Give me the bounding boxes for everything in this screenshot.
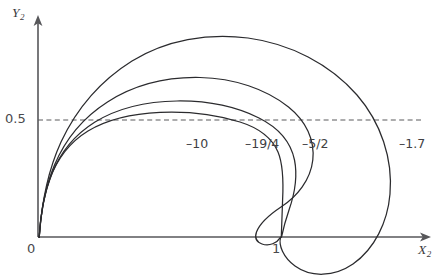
y-axis — [34, 15, 43, 237]
curve-label-minus-19-4: –19/4 — [245, 138, 279, 151]
origin-tick-label: 0 — [27, 242, 35, 255]
curve-label-minus-10: –10 — [186, 138, 208, 151]
plot-canvas — [0, 0, 441, 277]
y-tick-label-half: 0.5 — [5, 112, 26, 125]
curve-minus-5-2 — [39, 77, 313, 244]
curve-minus-10 — [39, 112, 283, 237]
x-axis-label: X2 — [418, 243, 431, 257]
curve-minus-19-4 — [39, 101, 296, 237]
x-tick-label-one: 1 — [272, 242, 280, 255]
curve-label-minus-5-2: –5/2 — [302, 138, 328, 151]
curve-minus-1-7 — [39, 36, 390, 274]
y-axis-label: Y2 — [12, 6, 24, 20]
x-axis — [38, 233, 431, 242]
curve-label-minus-1-7: –1.7 — [399, 138, 425, 151]
figure-root: Y2 X2 0 1 0.5 –10 –19/4 –5/2 –1.7 — [0, 0, 441, 277]
